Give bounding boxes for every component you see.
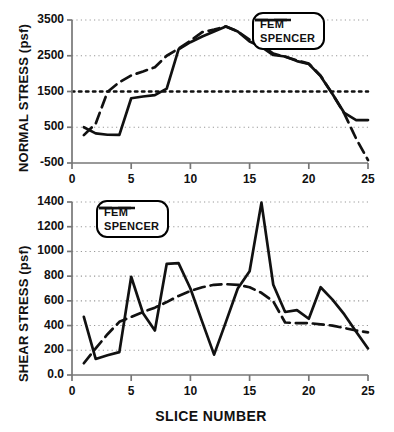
y-tick-label: 3500 [18, 12, 64, 26]
y-tick-label: 500 [18, 119, 64, 133]
series-spencer [84, 26, 368, 160]
legend-entry-spencer: SPENCER [104, 219, 159, 233]
y-tick-label: -500 [18, 155, 64, 169]
x-tick-label: 10 [175, 384, 205, 398]
x-tick-label: 25 [353, 172, 383, 186]
legend-key-spencer-dashed [98, 202, 136, 214]
legend-label-spencer: SPENCER [104, 220, 159, 232]
x-axis-title: SLICE NUMBER [14, 408, 394, 424]
x-tick-label: 0 [57, 172, 87, 186]
y-tick-label: 1500 [18, 84, 64, 98]
x-tick-label: 15 [235, 384, 265, 398]
y-tick-label: 400 [18, 318, 64, 332]
x-tick-label: 25 [353, 384, 383, 398]
y-tick-label: 0.0 [18, 367, 64, 381]
x-tick-label: 15 [235, 172, 265, 186]
x-tick-label: 20 [294, 172, 324, 186]
x-tick-label: 10 [175, 172, 205, 186]
x-tick-label: 5 [116, 384, 146, 398]
legend-normal: FEM SPENCER [252, 12, 325, 50]
y-tick-label: 800 [18, 268, 64, 282]
chart-shear-stress: SHEAR STRESS (psf) FEM SPENCER SLICE NUM… [0, 186, 394, 432]
x-tick-label: 0 [57, 384, 87, 398]
y-tick-label: 200 [18, 342, 64, 356]
legend-shear: FEM SPENCER [96, 200, 169, 238]
series-fem [84, 26, 368, 135]
legend-label-spencer: SPENCER [260, 32, 315, 44]
y-tick-label: 1400 [18, 194, 64, 208]
y-tick-label: 1200 [18, 219, 64, 233]
legend-entry-spencer: SPENCER [260, 31, 315, 45]
x-tick-label: 20 [294, 384, 324, 398]
x-tick-label: 5 [116, 172, 146, 186]
legend-key-spencer-dashed [254, 14, 292, 26]
y-tick-label: 600 [18, 293, 64, 307]
y-tick-label: 2500 [18, 48, 64, 62]
chart-normal-stress: NORMAL STRESS (psf) FEM SPENCER -5005001… [0, 0, 394, 196]
figure: NORMAL STRESS (psf) FEM SPENCER -5005001… [0, 0, 394, 432]
y-tick-label: 1000 [18, 243, 64, 257]
